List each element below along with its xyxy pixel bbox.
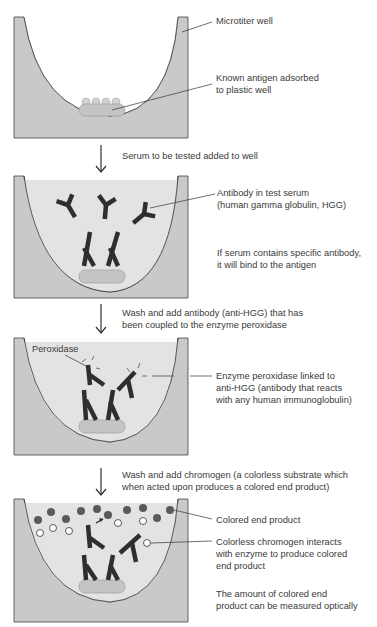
label-peroxidase: Peroxidase (32, 343, 79, 355)
label-antibody-in-serum: Antibody in test serum (human gamma glob… (217, 187, 346, 211)
antigen-4 (79, 580, 125, 593)
arrow-down-icon (96, 468, 106, 495)
label-enzyme-linked: Enzyme peroxidase linked to anti-HGG (an… (216, 370, 352, 406)
label-known-antigen: Known antigen adsorbed to plastic well (216, 72, 319, 96)
step-wash-add-anti-hgg: Wash and add antibody (anti-HGG) that ha… (122, 307, 303, 331)
antigen-3 (79, 420, 125, 433)
label-colorless-chromogen: Colorless chromogen interacts with enzym… (216, 536, 347, 572)
antigen-1 (79, 98, 125, 116)
label-serum-binds: If serum contains specific antibody, it … (217, 247, 361, 271)
label-measured-optically: The amount of colored end product can be… (216, 588, 358, 612)
step-serum-added: Serum to be tested added to well (122, 150, 258, 162)
antigen-2 (79, 270, 125, 283)
arrow-down-icon (96, 304, 106, 333)
label-microtiter-well: Microtiter well (216, 15, 273, 27)
arrow-down-icon (96, 145, 106, 172)
label-colored-end-product: Colored end product (216, 514, 300, 526)
well-1 (14, 17, 188, 138)
well-3 (14, 338, 188, 455)
step-wash-add-chromogen: Wash and add chromogen (a colorless subs… (122, 469, 348, 493)
